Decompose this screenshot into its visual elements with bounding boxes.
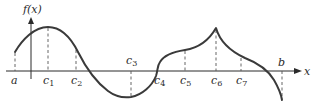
- function-curve: [15, 27, 282, 100]
- label-c1: c1: [43, 74, 54, 88]
- label-a: a: [11, 74, 18, 87]
- y-axis-arrow-icon: [28, 17, 34, 24]
- x-axis-label: x: [304, 65, 311, 78]
- y-axis: f(x): [22, 3, 42, 79]
- x-axis-arrow-icon: [294, 68, 302, 74]
- label-c4: c4: [154, 74, 165, 88]
- label-c3: c3: [126, 54, 137, 68]
- label-c5: c5: [180, 74, 191, 88]
- label-b: b: [278, 56, 285, 69]
- label-c2: c2: [71, 74, 82, 88]
- y-axis-label: f(x): [22, 3, 42, 16]
- label-c7: c7: [236, 74, 247, 88]
- function-graph-figure: x f(x) a c1 c2 c3 c4 c5: [0, 0, 311, 108]
- label-c6: c6: [211, 74, 222, 88]
